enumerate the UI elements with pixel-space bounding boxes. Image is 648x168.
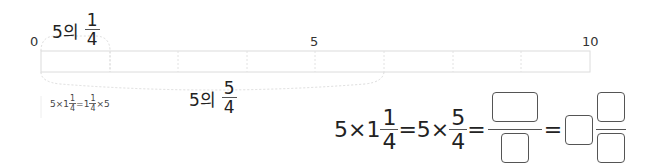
denominator: 4 [87, 30, 98, 48]
numerator: 1 [89, 95, 96, 104]
answer-box-numerator[interactable] [492, 92, 538, 122]
answer-box-whole[interactable] [565, 115, 593, 145]
top-label-prefix: 5의 [52, 18, 79, 43]
equation: 5×1 14 =5× 54 = = [334, 92, 626, 167]
answer-box-mixed-denominator[interactable] [597, 133, 625, 163]
bottom-label-fraction: 5 4 [222, 80, 237, 116]
numerator: 1 [85, 12, 100, 30]
equation-part: = [544, 117, 562, 142]
numerator-slot [488, 92, 542, 130]
answer-box-denominator[interactable] [501, 133, 529, 163]
numerator: 5 [449, 107, 467, 130]
denominator: 4 [70, 104, 75, 113]
improper-fraction: 54 [449, 107, 467, 153]
denominator: 4 [224, 98, 235, 116]
tick-label-5: 5 [310, 34, 318, 49]
top-label-fraction: 1 4 [85, 12, 100, 48]
tick-label-0: 0 [30, 34, 38, 49]
numerator: 1 [380, 107, 398, 130]
numerator-slot [596, 92, 626, 130]
denominator: 4 [90, 104, 95, 113]
denominator: 4 [382, 130, 396, 153]
note-fraction: 14 [69, 95, 76, 113]
mixed-fraction: 14 [380, 107, 398, 153]
equation-part: = [467, 117, 485, 142]
denominator: 4 [451, 130, 465, 153]
denominator-slot [501, 130, 529, 167]
equation-part: 5×1 [334, 117, 380, 142]
note-part: 5×1 [50, 99, 69, 109]
numerator: 1 [69, 95, 76, 104]
equation-part: =5× [398, 117, 449, 142]
answer-fraction [488, 92, 542, 167]
numerator: 5 [222, 80, 237, 98]
tick-label-10: 10 [582, 34, 599, 49]
bottom-label-prefix: 5의 [189, 86, 216, 111]
note-part: =1 [76, 99, 89, 109]
top-label: 5의 1 4 [52, 12, 100, 48]
note-fraction: 14 [89, 95, 96, 113]
denominator-slot [597, 130, 625, 167]
answer-mixed-fraction [596, 92, 626, 167]
bottom-label: 5의 5 4 [189, 80, 237, 116]
note-part: ×5 [96, 99, 109, 109]
answer-box-mixed-numerator[interactable] [597, 92, 625, 122]
hint-note: 5×1 14 =1 14 ×5 [50, 95, 110, 113]
